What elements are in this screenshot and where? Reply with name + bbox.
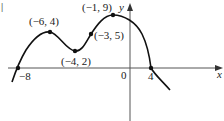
y-axis-label: y bbox=[118, 1, 124, 13]
label-neg4-2: (−4, 2) bbox=[61, 55, 91, 68]
function-graph: | x y 0 (−6, 4) (−4, 2) (−3, 5) (−1, 9) … bbox=[0, 0, 224, 121]
tick-label-4: 4 bbox=[148, 70, 154, 82]
x-axis: x bbox=[8, 65, 223, 80]
corner-mark: | bbox=[1, 0, 3, 12]
x-axis-label: x bbox=[216, 68, 222, 80]
point-neg3-5 bbox=[89, 32, 93, 36]
tick-label-neg8: −8 bbox=[19, 70, 31, 82]
label-neg6-4: (−6, 4) bbox=[29, 15, 59, 28]
origin-label: 0 bbox=[121, 69, 127, 81]
label-neg1-9: (−1, 9) bbox=[82, 1, 112, 14]
point-neg4-2 bbox=[73, 49, 77, 53]
point-neg6-4 bbox=[48, 30, 52, 34]
label-neg3-5: (−3, 5) bbox=[94, 29, 124, 42]
y-axis: y bbox=[118, 1, 133, 121]
point-neg1-9 bbox=[111, 13, 115, 17]
y-axis-arrow-icon bbox=[127, 3, 133, 11]
